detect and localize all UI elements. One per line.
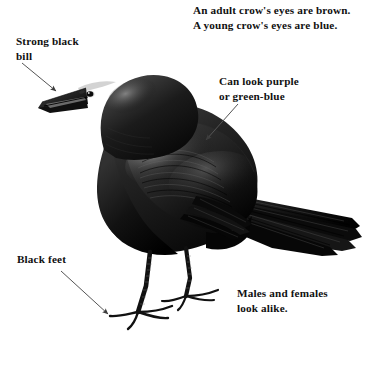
label-feather-sheen: Can look purple or green-blue	[219, 74, 299, 103]
label-feet: Black feet	[17, 252, 66, 267]
label-eye-color: An adult crow's eyes are brown. A young …	[193, 3, 351, 32]
arrow-to-wing	[206, 104, 238, 140]
arrow-to-feet	[61, 271, 108, 314]
label-bill: Strong black bill	[16, 34, 79, 63]
arrow-to-bill	[22, 63, 56, 91]
label-sexes-alike: Males and females look alike.	[237, 286, 328, 315]
crow-diagram: An adult crow's eyes are brown. A young …	[0, 0, 390, 365]
